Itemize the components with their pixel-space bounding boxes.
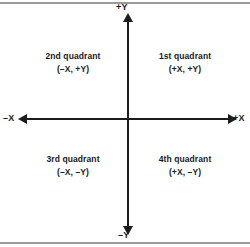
x-axis-line: [25, 118, 230, 120]
plot-area: +Y –Y –X +X 1st quadrant (+X, +Y) 2nd qu…: [0, 5, 250, 241]
quadrant-label-second: 2nd quadrant (–X, +Y): [27, 50, 119, 76]
quadrant-name: 3rd quadrant: [27, 153, 119, 166]
quadrant-label-fourth: 4th quadrant (+X, –Y): [139, 153, 231, 179]
coordinate-plane-figure: +Y –Y –X +X 1st quadrant (+X, +Y) 2nd qu…: [0, 0, 250, 247]
quadrant-name: 4th quadrant: [139, 153, 231, 166]
bottom-rule: [0, 242, 250, 244]
quadrant-name: 2nd quadrant: [27, 50, 119, 63]
quadrant-signs: (–X, +Y): [27, 63, 119, 76]
quadrant-signs: (–X, –Y): [27, 166, 119, 179]
x-axis-negative-label: –X: [3, 113, 14, 123]
x-axis-positive-label: +X: [233, 113, 245, 123]
quadrant-label-third: 3rd quadrant (–X, –Y): [27, 153, 119, 179]
quadrant-name: 1st quadrant: [139, 50, 231, 63]
x-axis-negative-arrow-icon: [18, 114, 27, 124]
quadrant-signs: (+X, +Y): [139, 63, 231, 76]
quadrant-signs: (+X, –Y): [139, 166, 231, 179]
y-axis-line: [127, 20, 129, 228]
y-axis-positive-label: +Y: [116, 2, 128, 12]
y-axis-positive-arrow-icon: [123, 13, 133, 22]
y-axis-negative-label: –Y: [118, 230, 129, 240]
quadrant-label-first: 1st quadrant (+X, +Y): [139, 50, 231, 76]
